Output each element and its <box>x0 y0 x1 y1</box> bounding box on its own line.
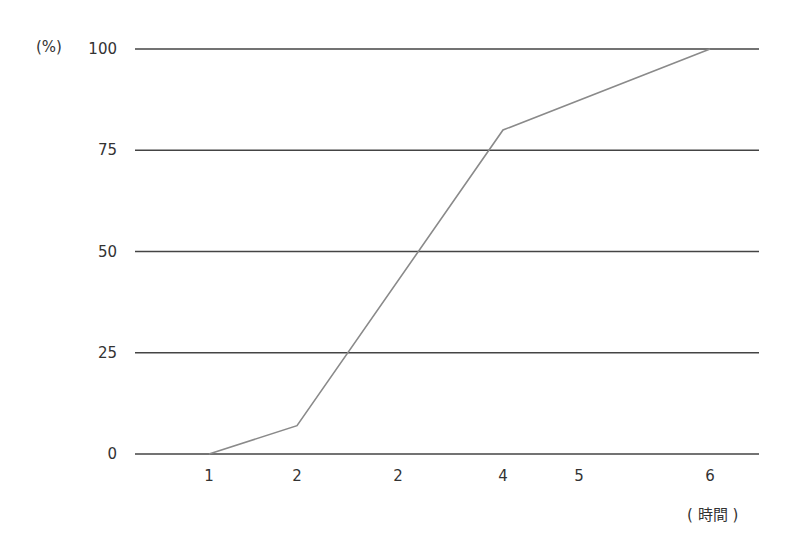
y-axis-unit-label: (%) <box>36 38 62 56</box>
y-tick-label: 50 <box>77 243 117 261</box>
x-tick-label: 6 <box>705 467 715 485</box>
horizontal-gridlines <box>135 49 759 454</box>
x-axis-unit-label: ( 時間 ) <box>687 503 738 524</box>
x-tick-label: 5 <box>574 467 584 485</box>
x-tick-label: 1 <box>204 467 214 485</box>
x-tick-label: 2 <box>292 467 302 485</box>
y-tick-label: 0 <box>77 445 117 463</box>
y-tick-label: 25 <box>77 344 117 362</box>
x-tick-label: 2 <box>393 467 403 485</box>
x-tick-label: 4 <box>498 467 508 485</box>
y-tick-label: 75 <box>77 141 117 159</box>
y-tick-label: 100 <box>77 40 117 58</box>
